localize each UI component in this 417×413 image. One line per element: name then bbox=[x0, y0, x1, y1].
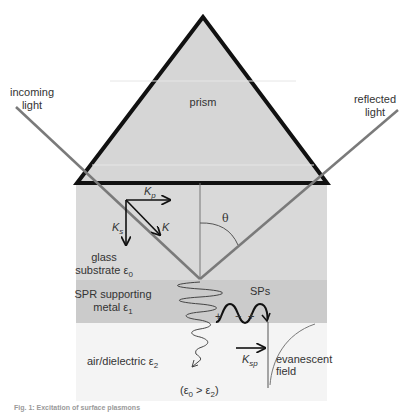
glass-label: glass bbox=[91, 251, 117, 263]
incoming-light-label: incoming bbox=[10, 86, 54, 98]
charge-plus-2: + bbox=[248, 310, 254, 322]
prism-label: prism bbox=[190, 96, 217, 108]
reflected-light-label: reflected bbox=[354, 93, 396, 105]
charge-minus: − bbox=[235, 310, 241, 322]
charge-plus-1: + bbox=[215, 310, 221, 322]
figure-caption: Fig. 1: Excitation of surface plasmons bbox=[14, 404, 140, 412]
k-label: K bbox=[162, 221, 170, 233]
evanescent-label: evanescent bbox=[276, 353, 332, 365]
metal-label: SPR supporting bbox=[74, 288, 151, 300]
incoming-light-label-2: light bbox=[22, 99, 42, 111]
spr-kretschmann-diagram: θ Kp Ks K prism incoming light reflected… bbox=[0, 0, 417, 413]
sps-label: SPs bbox=[250, 285, 271, 297]
theta-label: θ bbox=[222, 212, 229, 225]
evanescent-label-2: field bbox=[276, 365, 296, 377]
reflected-light-label-2: light bbox=[365, 106, 385, 118]
